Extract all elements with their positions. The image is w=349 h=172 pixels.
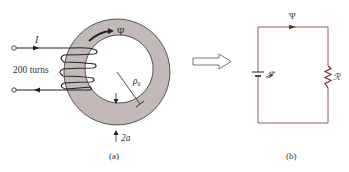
panel-a: Ψ I 200 turns ρ0 2a (a) (12, 19, 170, 161)
thickness-arrowhead-bottom (114, 130, 119, 135)
flux-label-b: Ψ (289, 11, 296, 21)
hollow-right-arrow (193, 54, 231, 69)
caption-a: (a) (109, 151, 119, 161)
turns-label: 200 turns (13, 65, 49, 75)
magnetic-circuit-figure: Ψ I 200 turns ρ0 2a (a) Ψ 𝓕 ℛ (b) (0, 0, 349, 172)
thickness-label: 2a (121, 133, 131, 143)
current-label: I (34, 34, 39, 45)
terminal-bottom (12, 88, 16, 92)
current-arrow-out (34, 88, 40, 93)
mmf-label: 𝓕 (266, 70, 276, 80)
radius-label: ρ0 (132, 76, 141, 87)
reluctance-resistor (325, 66, 331, 88)
current-arrow-in (33, 46, 39, 51)
flux-label-a: Ψ (117, 26, 125, 37)
panel-b: Ψ 𝓕 ℛ (b) (252, 11, 341, 161)
reluctance-label: ℛ (333, 72, 341, 82)
terminal-top (12, 46, 16, 50)
flux-direction-arrow (289, 25, 296, 29)
caption-b: (b) (286, 151, 297, 161)
